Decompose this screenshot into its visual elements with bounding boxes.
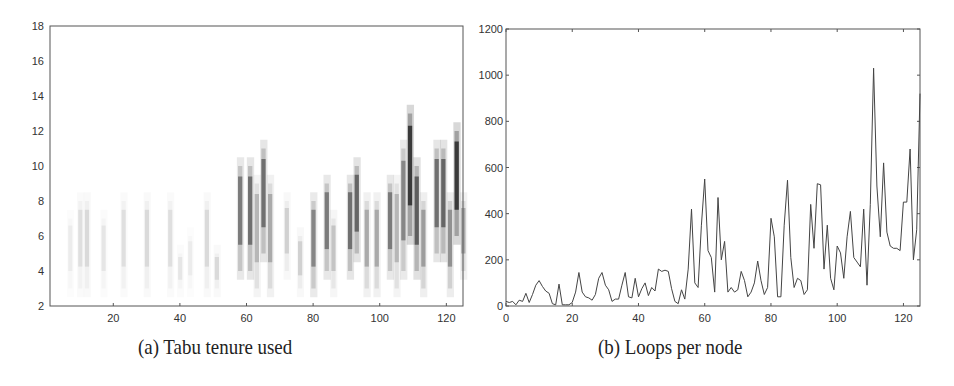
- x-tick-label: 100: [828, 312, 846, 324]
- heatmap-cell: [178, 254, 182, 289]
- y-tick-label: 1000: [479, 69, 503, 81]
- heatmap-cell: [85, 201, 89, 289]
- heatmap-cell: [448, 201, 452, 289]
- y-tick-label: 4: [38, 265, 44, 277]
- heatmap-cell: [145, 201, 149, 289]
- heatmap-cell: [365, 201, 369, 289]
- heatmap-cell: [435, 149, 439, 254]
- heatmap-cell: [78, 201, 82, 289]
- heatmap-cell: [455, 131, 459, 236]
- heatmap-cell: [268, 184, 272, 289]
- heatmap-cell: [375, 201, 379, 289]
- heatmap-cell: [401, 149, 405, 272]
- heatmap-cell: [248, 166, 252, 271]
- heatmap-cell: [355, 166, 359, 254]
- x-tick-label: 100: [371, 312, 389, 324]
- heatmap-cell: [68, 219, 72, 289]
- heatmap-cell: [168, 201, 172, 289]
- caption-right: (b) Loops per node: [598, 335, 742, 360]
- heatmap-cell: [388, 184, 392, 272]
- y-tick-label: 0: [497, 300, 503, 312]
- heatmap-cell: [285, 201, 289, 271]
- heatmap-cell: [415, 166, 419, 271]
- heatmap-cell: [238, 166, 242, 271]
- heatmap-cell: [325, 184, 329, 272]
- caption-left: (a) Tabu tenure used: [138, 335, 292, 360]
- y-tick-label: 400: [485, 208, 503, 220]
- heatmap-cell: [188, 236, 192, 289]
- heatmap-cell: [261, 149, 265, 254]
- y-tick-label: 6: [38, 230, 44, 242]
- x-tick-label: 40: [632, 312, 644, 324]
- x-tick-label: 80: [765, 312, 777, 324]
- heatmap-cell: [348, 184, 352, 272]
- x-tick-label: 120: [894, 312, 912, 324]
- heatmap-cells: [67, 105, 467, 298]
- line-plot: 020040060080010001200020406080100120: [477, 0, 954, 330]
- y-tick-label: 2: [38, 300, 44, 312]
- y-tick-label: 16: [32, 55, 44, 67]
- heatmap-cell: [408, 114, 412, 237]
- x-tick-label: 80: [307, 312, 319, 324]
- y-tick-label: 800: [485, 115, 503, 127]
- heatmap-cell: [255, 184, 259, 289]
- y-tick-label: 14: [32, 90, 44, 102]
- heatmap-cell: [215, 254, 219, 289]
- x-tick-label: 0: [503, 312, 509, 324]
- x-tick-label: 20: [566, 312, 578, 324]
- data-line: [506, 68, 920, 305]
- plot-frame: [506, 29, 920, 306]
- x-tick-label: 40: [174, 312, 186, 324]
- heatmap-cell: [121, 201, 125, 289]
- y-tick-label: 200: [485, 254, 503, 266]
- y-tick-label: 12: [32, 125, 44, 137]
- y-tick-label: 1200: [479, 23, 503, 35]
- heatmap-cell: [101, 219, 105, 289]
- right-chart-panel: 020040060080010001200020406080100120: [477, 0, 954, 330]
- y-tick-label: 10: [32, 160, 44, 172]
- x-tick-label: 120: [437, 312, 455, 324]
- left-chart-panel: 2468101214161820406080100120: [0, 0, 477, 330]
- heatmap-cell: [441, 149, 445, 254]
- y-tick-label: 8: [38, 195, 44, 207]
- heatmap-cell: [421, 201, 425, 289]
- heatmap-cell: [331, 219, 335, 289]
- heatmap-cell: [298, 236, 302, 289]
- heatmap-cell: [311, 201, 315, 289]
- heatmap-plot: 2468101214161820406080100120: [0, 0, 477, 330]
- x-tick-label: 20: [107, 312, 119, 324]
- x-tick-label: 60: [699, 312, 711, 324]
- y-tick-label: 600: [485, 162, 503, 174]
- heatmap-cell: [205, 201, 209, 289]
- heatmap-cell: [395, 184, 399, 289]
- x-tick-label: 60: [240, 312, 252, 324]
- y-tick-label: 18: [32, 20, 44, 32]
